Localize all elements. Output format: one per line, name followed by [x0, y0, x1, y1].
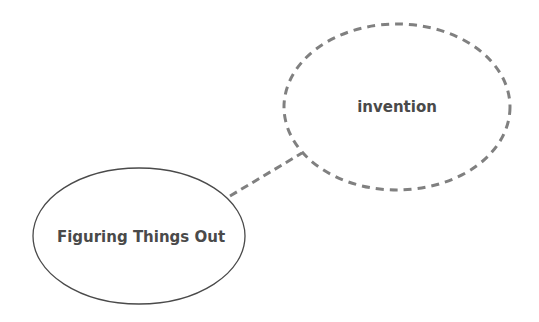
diagram-shapes — [0, 0, 539, 322]
edge-figuring-to-invention — [230, 153, 302, 196]
node-invention-label: invention — [357, 98, 437, 116]
concept-map-canvas: invention Figuring Things Out — [0, 0, 539, 322]
node-figuring-things-out-label: Figuring Things Out — [57, 228, 225, 246]
